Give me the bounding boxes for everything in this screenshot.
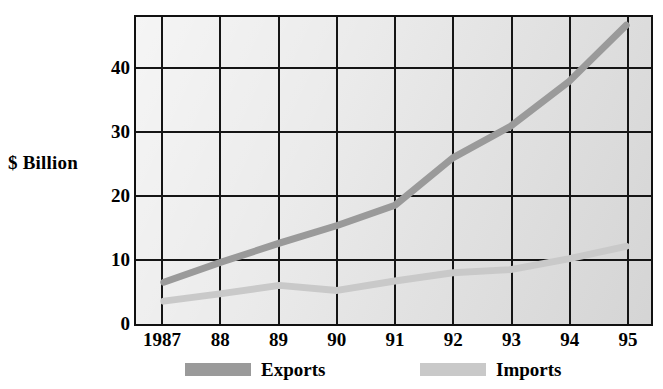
legend-swatch-icon <box>420 363 486 376</box>
x-axis-tick-labels: 19878889909192939495 <box>0 330 663 358</box>
x-tick-label: 94 <box>560 330 579 349</box>
series-line-imports <box>164 246 626 301</box>
x-tick-label: 95 <box>619 330 638 349</box>
legend-label: Exports <box>261 360 325 379</box>
legend-item-imports[interactable]: Imports <box>420 360 561 379</box>
x-tick-label: 1987 <box>143 330 181 349</box>
series-lines <box>136 17 651 324</box>
line-chart: $ Billion 010203040 19878889909192939495… <box>0 0 663 389</box>
x-tick-label: 90 <box>327 330 346 349</box>
y-tick-label: 20 <box>84 186 130 205</box>
legend-swatch-icon <box>185 363 251 376</box>
x-tick-label: 88 <box>211 330 230 349</box>
chart-legend: ExportsImports <box>0 360 663 386</box>
series-line-exports <box>164 25 626 282</box>
x-tick-label: 89 <box>269 330 288 349</box>
x-tick-label: 91 <box>386 330 405 349</box>
plot-area <box>134 15 653 326</box>
y-tick-label: 10 <box>84 250 130 269</box>
y-tick-label: 30 <box>84 122 130 141</box>
legend-label: Imports <box>496 360 561 379</box>
legend-item-exports[interactable]: Exports <box>185 360 325 379</box>
y-tick-label: 40 <box>84 58 130 77</box>
x-tick-label: 92 <box>444 330 463 349</box>
x-tick-label: 93 <box>502 330 521 349</box>
